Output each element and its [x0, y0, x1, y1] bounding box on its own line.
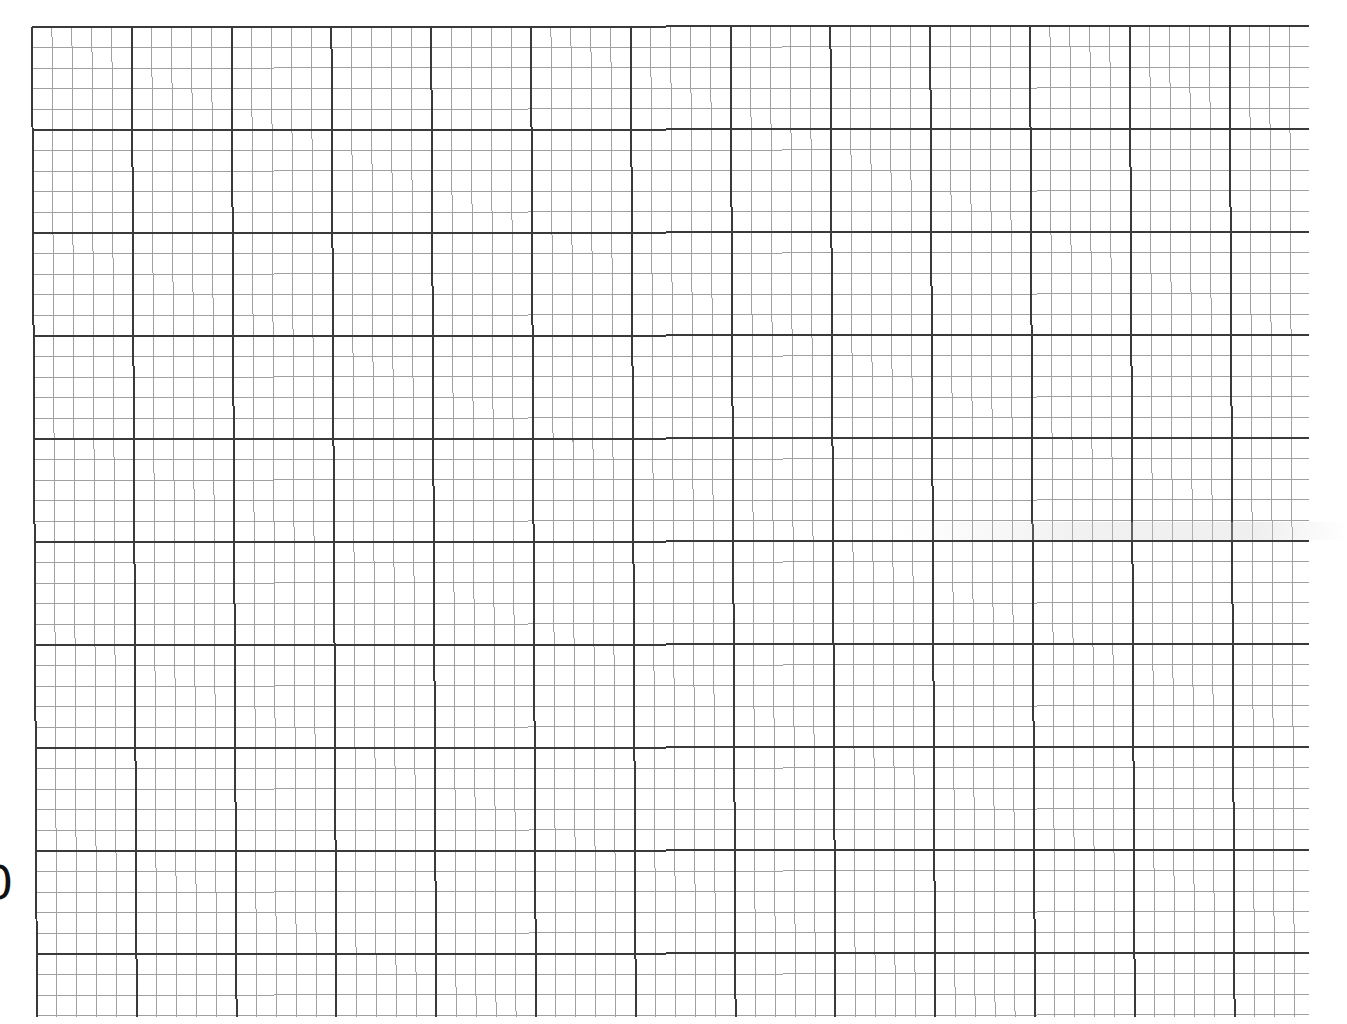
major-vertical-line	[331, 27, 336, 1017]
major-vertical-line	[531, 27, 536, 1017]
minor-vertical-line	[1110, 27, 1115, 1017]
minor-horizontal-line	[36, 809, 1309, 810]
minor-vertical-line	[1190, 27, 1195, 1017]
minor-horizontal-line	[33, 211, 1309, 212]
minor-horizontal-line	[36, 788, 1309, 789]
minor-horizontal-line	[32, 67, 1309, 68]
minor-vertical-line	[1170, 27, 1175, 1017]
minor-vertical-line	[810, 27, 815, 1017]
minor-horizontal-line	[32, 88, 1309, 89]
minor-horizontal-line	[32, 108, 1309, 109]
graph-paper-grid	[0, 0, 1347, 1024]
minor-vertical-line	[671, 27, 676, 1017]
minor-horizontal-line	[37, 994, 1309, 995]
minor-vertical-line	[771, 27, 776, 1017]
minor-vertical-line	[890, 27, 895, 1017]
minor-horizontal-line	[37, 1015, 1309, 1016]
minor-vertical-line	[1070, 27, 1075, 1017]
minor-horizontal-line	[33, 273, 1309, 274]
minor-horizontal-line	[33, 314, 1309, 315]
minor-horizontal-line	[36, 912, 1309, 913]
major-vertical-line	[731, 27, 736, 1017]
minor-vertical-line	[351, 27, 356, 1017]
minor-vertical-line	[691, 27, 696, 1017]
minor-vertical-line	[611, 27, 616, 1017]
minor-horizontal-line	[36, 891, 1309, 892]
minor-horizontal-line	[33, 253, 1309, 254]
major-vertical-line	[830, 27, 835, 1017]
minor-horizontal-line	[36, 829, 1309, 830]
minor-grid-lines	[32, 27, 1309, 1017]
minor-vertical-line	[1010, 27, 1015, 1017]
minor-vertical-line	[192, 27, 197, 1017]
minor-vertical-line	[411, 27, 416, 1017]
minor-vertical-line	[1270, 27, 1275, 1017]
minor-vertical-line	[152, 27, 157, 1017]
minor-vertical-line	[571, 27, 576, 1017]
minor-horizontal-line	[32, 47, 1309, 48]
minor-horizontal-line	[33, 191, 1309, 192]
minor-vertical-line	[311, 27, 316, 1017]
major-vertical-line	[1230, 27, 1235, 1017]
minor-vertical-line	[790, 27, 795, 1017]
minor-horizontal-line	[35, 562, 1309, 563]
minor-horizontal-line	[35, 582, 1309, 583]
major-vertical-line	[32, 27, 37, 1017]
minor-vertical-line	[751, 27, 756, 1017]
minor-vertical-line	[92, 27, 97, 1017]
minor-vertical-line	[391, 27, 396, 1017]
minor-vertical-line	[272, 27, 277, 1017]
minor-horizontal-line	[34, 397, 1309, 398]
minor-vertical-line	[52, 27, 57, 1017]
minor-horizontal-line	[33, 150, 1309, 151]
minor-horizontal-line	[35, 665, 1309, 666]
major-vertical-line	[1130, 27, 1135, 1017]
minor-vertical-line	[371, 27, 376, 1017]
major-horizontal-line	[36, 747, 1309, 748]
major-vertical-line	[431, 27, 436, 1017]
minor-vertical-line	[471, 27, 476, 1017]
minor-vertical-line	[491, 27, 496, 1017]
minor-vertical-line	[591, 27, 596, 1017]
minor-vertical-line	[711, 27, 716, 1017]
minor-vertical-line	[1250, 27, 1255, 1017]
minor-vertical-line	[910, 27, 915, 1017]
minor-vertical-line	[950, 27, 955, 1017]
minor-horizontal-line	[37, 932, 1309, 933]
minor-vertical-line	[990, 27, 995, 1017]
major-horizontal-line	[34, 438, 1309, 439]
minor-horizontal-line	[34, 459, 1309, 460]
minor-horizontal-line	[34, 520, 1309, 521]
minor-horizontal-line	[35, 685, 1309, 686]
minor-vertical-line	[1090, 27, 1095, 1017]
minor-vertical-line	[1050, 27, 1055, 1017]
major-horizontal-line	[35, 644, 1309, 645]
minor-horizontal-line	[35, 706, 1309, 707]
minor-horizontal-line	[35, 623, 1309, 624]
major-horizontal-line	[34, 335, 1309, 336]
minor-horizontal-line	[33, 170, 1309, 171]
minor-vertical-line	[451, 27, 456, 1017]
major-horizontal-line	[36, 850, 1309, 851]
minor-vertical-line	[1150, 27, 1155, 1017]
minor-vertical-line	[511, 27, 516, 1017]
minor-vertical-line	[551, 27, 556, 1017]
minor-horizontal-line	[36, 726, 1309, 727]
minor-horizontal-line	[34, 479, 1309, 480]
major-vertical-line	[132, 27, 137, 1017]
major-vertical-line	[1030, 27, 1035, 1017]
minor-vertical-line	[112, 27, 117, 1017]
minor-horizontal-line	[34, 376, 1309, 377]
minor-horizontal-line	[35, 603, 1309, 604]
minor-horizontal-line	[34, 356, 1309, 357]
major-horizontal-line	[33, 232, 1309, 233]
minor-vertical-line	[252, 27, 257, 1017]
minor-horizontal-line	[37, 974, 1309, 975]
major-vertical-line	[232, 27, 237, 1017]
minor-vertical-line	[651, 27, 656, 1017]
major-horizontal-line	[33, 129, 1309, 130]
minor-horizontal-line	[36, 768, 1309, 769]
minor-horizontal-line	[34, 500, 1309, 501]
minor-horizontal-line	[34, 417, 1309, 418]
minor-horizontal-line	[36, 871, 1309, 872]
